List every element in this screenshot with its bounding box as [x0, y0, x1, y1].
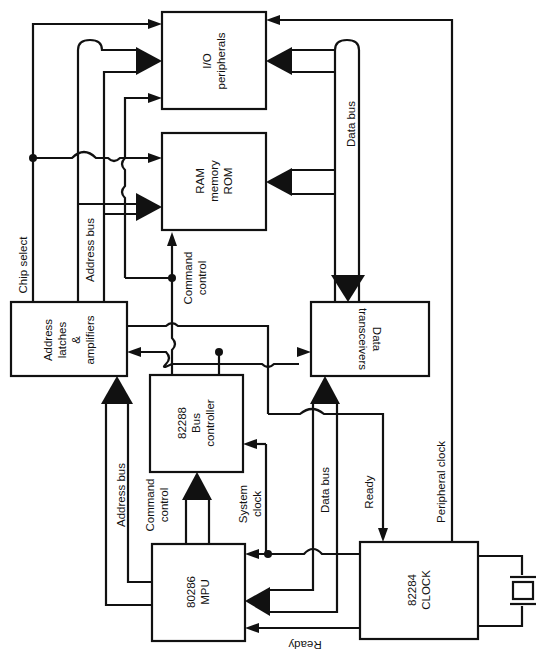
- svg-text:Data bus: Data bus: [345, 101, 357, 147]
- ready-line-bottom: [245, 623, 360, 633]
- svg-text:MPU: MPU: [199, 579, 211, 605]
- svg-text:peripherals: peripherals: [215, 32, 227, 89]
- block-diagram: I/O peripherals RAM memory ROM Address l…: [0, 0, 547, 660]
- system-clock-label: System clock: [237, 485, 263, 523]
- svg-text:memory: memory: [208, 160, 220, 202]
- svg-text:Peripheral clock: Peripheral clock: [435, 441, 447, 523]
- svg-text:ROM: ROM: [222, 168, 234, 195]
- data-bus-bottom-label: Data bus: [319, 467, 331, 513]
- svg-text:Address: Address: [42, 319, 54, 361]
- svg-text:Address bus: Address bus: [84, 218, 96, 282]
- data-bus-top: [266, 40, 365, 302]
- svg-text:CLOCK: CLOCK: [420, 570, 432, 610]
- svg-text:Address bus: Address bus: [115, 463, 127, 527]
- svg-text:RAM: RAM: [194, 168, 206, 194]
- command-control-bottom: [182, 472, 212, 544]
- data-bus-top-label: Data bus: [345, 101, 357, 147]
- address-bus-top-label: Address bus: [84, 218, 96, 282]
- svg-text:control: control: [158, 488, 170, 523]
- clock-block: [360, 542, 478, 639]
- peripheral-clock-label: Peripheral clock: [435, 441, 447, 523]
- ready-mid-label: Ready: [363, 475, 375, 508]
- svg-text:80286: 80286: [185, 576, 197, 608]
- data-transceivers-block: [311, 302, 429, 376]
- io-peripherals-block: [162, 12, 266, 109]
- svg-text:Chip select: Chip select: [17, 236, 29, 294]
- svg-text:Ready: Ready: [363, 475, 375, 508]
- svg-text:amplifiers: amplifiers: [84, 315, 96, 364]
- svg-text:I/O: I/O: [201, 53, 213, 68]
- svg-text:Ready: Ready: [288, 639, 321, 651]
- svg-text:latches: latches: [56, 322, 68, 359]
- svg-text:controller: controller: [204, 399, 216, 446]
- ready-bottom-label: Ready: [288, 639, 321, 651]
- crystal-icon: [478, 556, 536, 626]
- svg-text:Command: Command: [182, 251, 194, 304]
- chip-select-label: Chip select: [17, 236, 29, 294]
- svg-text:Data: Data: [371, 327, 383, 352]
- command-control-top-label: Command control: [182, 251, 208, 304]
- svg-text:transceivers: transceivers: [357, 308, 369, 370]
- svg-text:Bus: Bus: [190, 413, 202, 433]
- svg-text:&: &: [70, 336, 82, 344]
- address-latches-block: [11, 302, 127, 376]
- svg-text:Command: Command: [144, 478, 156, 531]
- address-bus-bottom-label: Address bus: [115, 463, 127, 527]
- svg-text:control: control: [196, 261, 208, 296]
- svg-text:clock: clock: [251, 491, 263, 517]
- command-control-bottom-label: Command control: [144, 478, 170, 531]
- svg-text:82288: 82288: [176, 407, 188, 439]
- svg-text:System: System: [237, 485, 249, 523]
- svg-text:82284: 82284: [406, 573, 418, 606]
- svg-text:Data bus: Data bus: [319, 467, 331, 513]
